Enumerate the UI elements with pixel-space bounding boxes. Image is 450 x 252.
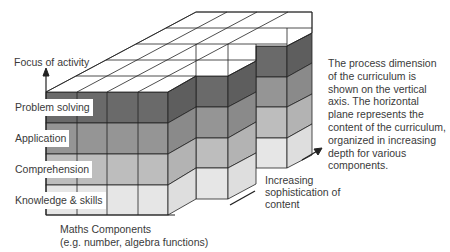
vertical-axis-label: Focus of activity — [14, 56, 89, 68]
level-label-comprehension: Comprehension — [12, 161, 92, 178]
level-label-application: Application — [12, 130, 69, 147]
block-right — [256, 33, 312, 168]
depth-axis-label-line2: sophistication of — [265, 186, 340, 198]
depth-axis-arrow-icon — [314, 148, 322, 155]
level-label-knowledge-skills: Knowledge & skills — [12, 192, 106, 209]
depth-axis-label-line3: content — [265, 198, 299, 210]
depth-axis-label-line1: Increasing — [265, 174, 313, 186]
horizontal-axis-label-line2: (e.g. number, algebra functions) — [60, 236, 208, 248]
horizontal-axis-label-line1: Maths Components — [60, 223, 151, 235]
vertical-axis-arrow-icon — [43, 68, 49, 76]
block-middle — [196, 61, 256, 199]
diagram-caption: The process dimension of the curriculum … — [328, 57, 446, 172]
level-label-problem-solving: Problem solving — [12, 99, 93, 116]
